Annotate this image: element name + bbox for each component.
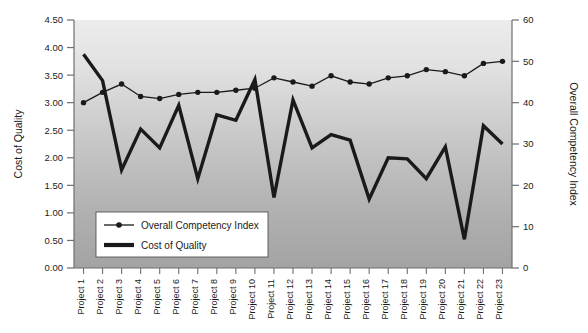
x-axis-tick-label: Project 5 [152,279,162,315]
x-axis-tick-label: Project 9 [228,279,238,315]
series-data-point [347,79,352,84]
y-axis-left-title: Cost of Quality [12,109,24,179]
x-axis-tick-label: Project 19 [418,279,428,320]
y-axis-right-tick: 0 [523,262,528,273]
x-axis-tick-label: Project 23 [494,279,504,320]
series-data-point [366,81,371,86]
x-axis-tick-label: Project 11 [266,279,276,319]
y-axis-left-tick: 0.00 [45,262,64,273]
y-axis-right-tick: 30 [523,138,534,149]
series-data-point [443,69,448,74]
x-axis-tick-label: Project 8 [209,279,219,315]
series-data-point [481,61,486,66]
x-axis-tick-label: Project 13 [304,279,314,320]
x-axis-tick-label: Project 1 [76,279,86,315]
y-axis-right-tick: 60 [523,14,534,25]
x-axis-tick-label: Project 6 [171,279,181,315]
x-axis-tick-label: Project 21 [456,279,466,320]
y-axis-left-tick: 4.50 [45,14,64,25]
series-data-point [271,75,276,80]
line-chart: 0.000.501.001.502.002.503.003.504.004.50… [0,0,588,333]
y-axis-left-tick: 2.00 [45,152,64,163]
y-axis-right-title: Overall Competency Index [568,82,580,206]
series-data-point [386,75,391,80]
chart-container: 0.000.501.001.502.002.503.003.504.004.50… [0,0,588,333]
x-axis-tick-label: Project 2 [95,279,105,315]
x-axis-tick-label: Project 17 [380,279,390,320]
series-data-point [500,59,505,64]
y-axis-right-tick: 10 [523,221,534,232]
series-data-point [176,92,181,97]
x-axis-tick-label: Project 20 [437,279,447,320]
x-axis-tick-label: Project 14 [323,279,333,320]
series-data-point [309,83,314,88]
x-axis-tick-label: Project 7 [190,279,200,315]
y-axis-left-tick: 2.50 [45,125,64,136]
legend-item-label: Overall Competency Index [141,220,259,231]
x-axis-tick-label: Project 4 [133,279,143,315]
series-data-point [81,100,86,105]
legend-item-label: Cost of Quality [141,240,207,251]
series-data-point [195,90,200,95]
x-axis-tick-label: Project 3 [114,279,124,315]
x-axis-tick-label: Project 22 [475,279,485,320]
series-data-point [138,94,143,99]
y-axis-left-tick: 4.00 [45,42,64,53]
y-axis-left-tick: 1.00 [45,207,64,218]
series-data-point [462,73,467,78]
x-axis-tick-label: Project 15 [342,279,352,320]
x-axis-tick-label: Project 18 [399,279,409,320]
series-data-point [424,67,429,72]
x-axis-tick-label: Project 12 [285,279,295,320]
series-data-point [233,88,238,93]
series-data-point [328,73,333,78]
y-axis-left-tick: 3.00 [45,97,64,108]
y-axis-left-tick: 0.50 [45,235,64,246]
x-axis-tick-label: Project 16 [361,279,371,320]
y-axis-right-tick: 40 [523,97,534,108]
chart-legend: Overall Competency IndexCost of Quality [96,212,268,257]
y-axis-left-tick: 3.50 [45,70,64,81]
series-data-point [405,73,410,78]
x-axis-tick-label: Project 10 [247,279,257,320]
legend-marker-icon [116,222,122,228]
series-data-point [119,81,124,86]
series-data-point [214,90,219,95]
y-axis-right-tick: 20 [523,180,534,191]
y-axis-left-tick: 1.50 [45,180,64,191]
y-axis-right-tick: 50 [523,56,534,67]
series-data-point [290,79,295,84]
series-data-point [157,96,162,101]
